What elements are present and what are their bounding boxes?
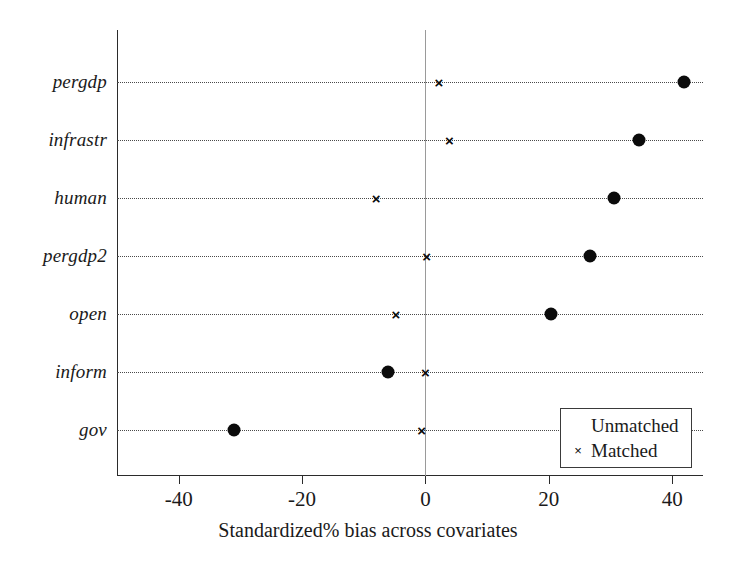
category-label-infrastr: infrastr [48, 129, 107, 151]
x-tick-label: 0 [420, 487, 431, 512]
matched-point-gov: × [415, 424, 428, 437]
unmatched-point-gov [228, 424, 241, 437]
matched-point-pergdp: × [432, 76, 445, 89]
gridline [117, 372, 703, 373]
x-tick [549, 476, 550, 484]
x-axis-spine [117, 475, 703, 476]
x-tick [672, 476, 673, 484]
chart-root: pergdp×infrastr×human×pergdp2×open×infor… [0, 0, 736, 574]
matched-point-pergdp2: × [420, 250, 433, 263]
unmatched-point-open [544, 308, 557, 321]
x-tick-label: -40 [165, 487, 193, 512]
unmatched-point-pergdp [678, 76, 691, 89]
matched-point-open: × [389, 308, 402, 321]
legend-label-matched: Matched [591, 440, 657, 462]
category-label-open: open [69, 303, 107, 325]
chart-legend: Unmatched × Matched [560, 408, 692, 468]
legend-item-unmatched[interactable]: Unmatched [569, 413, 685, 438]
x-tick-label: 20 [538, 487, 559, 512]
matched-point-human: × [370, 192, 383, 205]
x-tick-label: 40 [662, 487, 683, 512]
x-axis-title: Standardized% bias across covariates [0, 519, 736, 542]
category-label-pergdp: pergdp [53, 71, 107, 93]
x-tick [302, 476, 303, 484]
matched-point-infrastr: × [443, 134, 456, 147]
unmatched-point-infrastr [633, 134, 646, 147]
unmatched-point-human [608, 192, 621, 205]
y-axis-spine [117, 30, 118, 476]
x-tick-label: -20 [288, 487, 316, 512]
gridline [117, 140, 703, 141]
unmatched-point-pergdp2 [584, 250, 597, 263]
category-label-gov: gov [79, 419, 107, 441]
gridline [117, 82, 703, 83]
cross-icon: × [569, 444, 587, 457]
legend-label-unmatched: Unmatched [591, 415, 679, 437]
x-tick [425, 476, 426, 484]
gridline [117, 314, 703, 315]
gridline [117, 256, 703, 257]
matched-point-inform: × [419, 366, 432, 379]
unmatched-point-inform [382, 366, 395, 379]
category-label-human: human [54, 187, 107, 209]
category-label-inform: inform [55, 361, 107, 383]
legend-item-matched[interactable]: × Matched [569, 438, 685, 463]
category-label-pergdp2: pergdp2 [43, 245, 107, 267]
x-tick [179, 476, 180, 484]
